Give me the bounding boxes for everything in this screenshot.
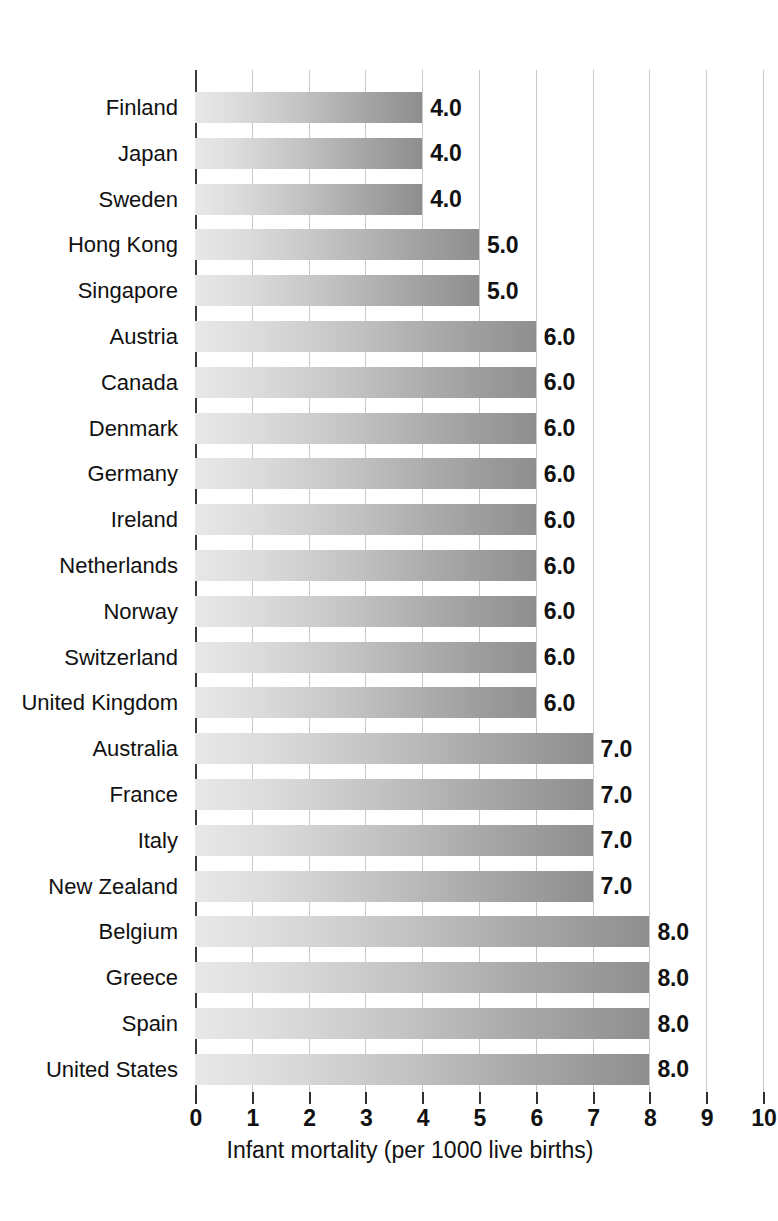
bar-value-label: 6.0	[544, 369, 575, 396]
bar-value-label: 6.0	[544, 644, 575, 671]
bar-value-label: 7.0	[601, 781, 632, 808]
category-label: Singapore	[78, 275, 178, 306]
category-label: Denmark	[89, 413, 178, 444]
bar-row: 6.0	[195, 550, 778, 581]
category-label: Ireland	[111, 504, 178, 535]
x-axis: 012345678910	[195, 1092, 778, 1132]
bar	[195, 871, 593, 902]
bar-row: 6.0	[195, 367, 778, 398]
bar-row: 4.0	[195, 92, 778, 123]
category-label: Austria	[110, 321, 178, 352]
bar-row: 8.0	[195, 916, 778, 947]
x-tick-mark	[593, 1092, 595, 1104]
category-label: Norway	[103, 596, 178, 627]
bar-value-label: 7.0	[601, 735, 632, 762]
bar-row: 7.0	[195, 825, 778, 856]
bar	[195, 687, 536, 718]
bar-value-label: 7.0	[601, 873, 632, 900]
bar	[195, 733, 593, 764]
bar	[195, 138, 422, 169]
category-label: Italy	[138, 825, 178, 856]
bar-value-label: 6.0	[544, 598, 575, 625]
bar-value-label: 6.0	[544, 552, 575, 579]
bar-row: 4.0	[195, 138, 778, 169]
x-tick-label: 10	[751, 1105, 777, 1132]
category-label: United Kingdom	[21, 687, 178, 718]
category-label: Canada	[101, 367, 178, 398]
bar	[195, 962, 649, 993]
bar	[195, 642, 536, 673]
bar-row: 7.0	[195, 733, 778, 764]
bar	[195, 1008, 649, 1039]
x-tick-mark	[422, 1092, 424, 1104]
infant-mortality-bar-chart: 4.04.04.05.05.06.06.06.06.06.06.06.06.06…	[0, 0, 778, 1221]
category-label: Switzerland	[64, 642, 178, 673]
bar-value-label: 7.0	[601, 827, 632, 854]
x-tick-mark	[309, 1092, 311, 1104]
x-tick-label: 5	[474, 1105, 487, 1132]
bar	[195, 275, 479, 306]
bars-layer: 4.04.04.05.05.06.06.06.06.06.06.06.06.06…	[195, 70, 778, 1092]
bar-value-label: 8.0	[657, 1010, 688, 1037]
bar	[195, 779, 593, 810]
x-tick-label: 8	[644, 1105, 657, 1132]
category-label: Germany	[88, 458, 178, 489]
bar-value-label: 4.0	[430, 94, 461, 121]
category-label: Greece	[106, 962, 178, 993]
bar-row: 6.0	[195, 413, 778, 444]
bar-row: 7.0	[195, 779, 778, 810]
bar	[195, 184, 422, 215]
x-tick-label: 2	[303, 1105, 316, 1132]
bar-row: 8.0	[195, 962, 778, 993]
x-tick-label: 9	[701, 1105, 714, 1132]
bar	[195, 321, 536, 352]
bar-row: 4.0	[195, 184, 778, 215]
bar-value-label: 8.0	[657, 918, 688, 945]
bar-row: 5.0	[195, 229, 778, 260]
x-tick-mark	[479, 1092, 481, 1104]
bar-row: 5.0	[195, 275, 778, 306]
x-tick-mark	[365, 1092, 367, 1104]
category-label: Sweden	[98, 184, 178, 215]
category-label: Australia	[92, 733, 178, 764]
bar-value-label: 5.0	[487, 277, 518, 304]
x-tick-label: 0	[190, 1105, 203, 1132]
bar	[195, 1054, 649, 1085]
x-tick-mark	[706, 1092, 708, 1104]
x-tick-mark	[763, 1092, 765, 1104]
x-axis-title: Infant mortality (per 1000 live births)	[0, 1137, 778, 1164]
category-label: Japan	[118, 138, 178, 169]
bar	[195, 825, 593, 856]
bar-value-label: 6.0	[544, 415, 575, 442]
bar	[195, 458, 536, 489]
x-axis-title-text: Infant mortality (per 1000 live births)	[227, 1137, 594, 1164]
category-label: Finland	[106, 92, 178, 123]
bar-row: 6.0	[195, 321, 778, 352]
x-tick-label: 1	[246, 1105, 259, 1132]
x-tick-label: 6	[530, 1105, 543, 1132]
x-tick-label: 3	[360, 1105, 373, 1132]
x-tick-label: 7	[587, 1105, 600, 1132]
bar	[195, 550, 536, 581]
category-axis-labels: FinlandJapanSwedenHong KongSingaporeAust…	[0, 70, 186, 1092]
bar-value-label: 5.0	[487, 231, 518, 258]
bar-value-label: 6.0	[544, 689, 575, 716]
category-label: Netherlands	[59, 550, 178, 581]
bar	[195, 916, 649, 947]
x-tick-mark	[649, 1092, 651, 1104]
category-label: Belgium	[99, 916, 178, 947]
bar	[195, 413, 536, 444]
bar-value-label: 6.0	[544, 460, 575, 487]
x-tick-mark	[252, 1092, 254, 1104]
category-label: United States	[46, 1054, 178, 1085]
bar	[195, 596, 536, 627]
bar	[195, 92, 422, 123]
category-label: Hong Kong	[68, 229, 178, 260]
bar	[195, 367, 536, 398]
bar-row: 6.0	[195, 687, 778, 718]
x-tick-label: 4	[417, 1105, 430, 1132]
bar-value-label: 6.0	[544, 506, 575, 533]
bar-row: 8.0	[195, 1054, 778, 1085]
category-label: Spain	[122, 1008, 178, 1039]
bar-row: 8.0	[195, 1008, 778, 1039]
